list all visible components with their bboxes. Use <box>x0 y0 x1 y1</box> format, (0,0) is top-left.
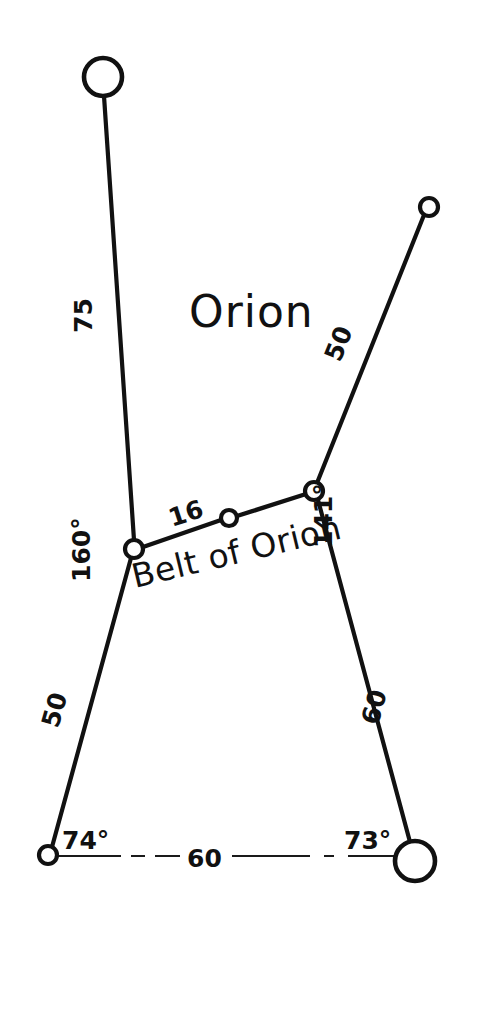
angle-label-74: 74° <box>62 826 109 855</box>
angle-label-73: 73° <box>344 826 391 855</box>
angle-label-160: 160° <box>67 517 96 582</box>
star-node-upper-right[interactable] <box>420 198 438 216</box>
orion-diagram-canvas: Orion Belt of Orion 75 50 16 50 60 60 16… <box>0 0 484 1021</box>
edge-belt-right-to-lower-right <box>318 500 410 842</box>
edge-belt-middle-to-belt-right <box>237 494 306 516</box>
star-nodes <box>39 58 438 881</box>
edge-label-50-lower-left: 50 <box>36 689 73 730</box>
constellation-edges <box>52 96 424 847</box>
angle-label-141: 141° <box>309 483 338 548</box>
star-node-upper-left[interactable] <box>84 58 122 96</box>
edge-label-75: 75 <box>69 298 98 333</box>
edge-upper-left-to-belt-left <box>104 96 134 540</box>
edge-label-60-lower-right: 60 <box>356 686 393 727</box>
edge-label-50-upper-right: 50 <box>319 322 359 365</box>
star-node-belt-middle[interactable] <box>221 510 237 526</box>
orion-constellation-figure: Orion Belt of Orion 75 50 16 50 60 60 16… <box>0 0 484 1021</box>
figure-title: Orion <box>189 286 314 337</box>
star-node-lower-right[interactable] <box>395 841 435 881</box>
baseline-label-60: 60 <box>187 844 222 873</box>
star-node-lower-left[interactable] <box>39 846 57 864</box>
